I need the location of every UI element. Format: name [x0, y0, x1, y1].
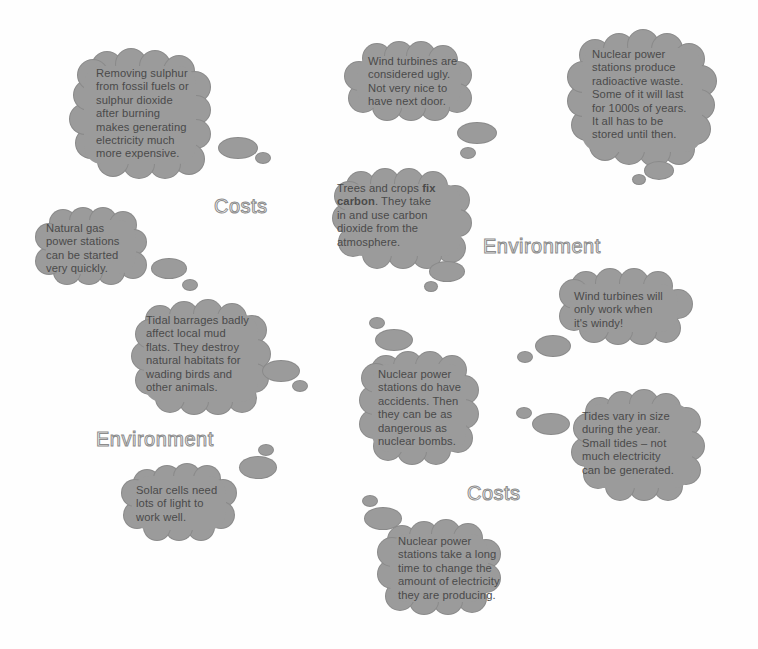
thought-trail-small — [518, 352, 532, 362]
thought-bubble-tidal-barrages: Tidal barrages badly affect local mud fl… — [132, 302, 270, 414]
thought-bubble-tides-vary: Tides vary in size during the year. Smal… — [572, 392, 704, 500]
bubble-text: Nuclear power stations take a long time … — [398, 535, 500, 602]
bubble-text: Wind turbines are considered ugly. Not v… — [368, 55, 457, 109]
thought-trail-small — [183, 280, 197, 290]
thought-bubble-wind-ugly: Wind turbines are considered ugly. Not v… — [345, 44, 473, 120]
thought-bubble-nuclear-waste: Nuclear power stations produce radioacti… — [568, 34, 716, 164]
thought-trail-small — [461, 148, 475, 158]
thought-trail-large — [152, 259, 186, 278]
thought-bubble-sulphur: Removing sulphur from fossil fuels or su… — [70, 52, 210, 178]
thought-trail-large — [430, 262, 464, 281]
bubble-text: Removing sulphur from fossil fuels or su… — [96, 67, 189, 161]
heading-costs-left: Costs — [214, 195, 268, 218]
thought-trail-small — [425, 282, 437, 291]
thought-trail-large — [536, 336, 570, 356]
thought-bubble-wind-windy: Wind turbines will only work when it's w… — [558, 272, 692, 344]
thought-trail-small — [256, 153, 270, 163]
thought-bubble-natural-gas: Natural gas power stations can be starte… — [36, 210, 146, 284]
thought-trail-large — [240, 457, 276, 478]
thought-bubble-nuclear-accidents: Nuclear power stations do have accidents… — [360, 352, 478, 464]
thought-bubble-diagram: Costs Environment Environment Costs Remo… — [0, 0, 758, 649]
thought-trail-large — [458, 123, 496, 143]
thought-trail-large — [376, 330, 412, 350]
thought-trail-large — [533, 414, 569, 434]
thought-trail-large — [365, 508, 401, 529]
bubble-text: Wind turbines will only work when it's w… — [574, 290, 663, 330]
thought-bubble-nuclear-slow: Nuclear power stations take a long time … — [378, 522, 500, 614]
bubble-text: Natural gas power stations can be starte… — [46, 222, 120, 276]
thought-bubble-solar: Solar cells need lots of light to work w… — [122, 466, 236, 540]
thought-trail-large — [219, 138, 257, 158]
bubble-text: Tides vary in size during the year. Smal… — [582, 410, 674, 477]
thought-trail-small — [370, 318, 384, 328]
heading-environment-right: Environment — [483, 235, 601, 258]
bubble-text: Tidal barrages badly affect local mud fl… — [146, 314, 249, 394]
heading-costs-right: Costs — [467, 482, 521, 505]
heading-environment-left: Environment — [96, 428, 214, 451]
thought-bubble-trees: Trees and crops fix carbon. They take in… — [333, 172, 473, 268]
thought-trail-large — [263, 361, 299, 381]
bubble-text: Nuclear power stations produce radioacti… — [592, 48, 687, 142]
thought-trail-small — [259, 445, 273, 455]
thought-trail-large — [645, 162, 673, 179]
bubble-text: Trees and crops fix carbon. They take in… — [337, 182, 436, 249]
bubble-text: Solar cells need lots of light to work w… — [136, 484, 217, 524]
thought-trail-small — [633, 175, 645, 184]
thought-trail-small — [517, 408, 531, 418]
thought-trail-small — [363, 496, 377, 506]
thought-trail-small — [293, 381, 307, 391]
bubble-text: Nuclear power stations do have accidents… — [378, 368, 461, 448]
